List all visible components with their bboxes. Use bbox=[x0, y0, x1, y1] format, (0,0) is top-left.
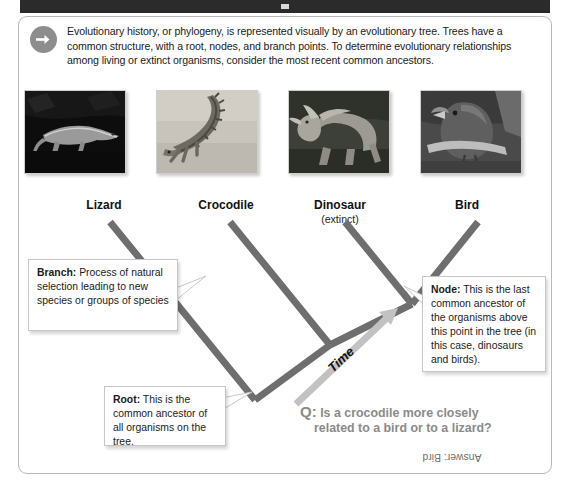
internal-branch-archosaur bbox=[330, 304, 412, 345]
question-line1: Is a crocodile more closely bbox=[320, 406, 478, 420]
branch-crocodile bbox=[230, 222, 330, 345]
review-question: Q: Is a crocodile more closely related t… bbox=[300, 405, 552, 435]
node-callout-term: Node: bbox=[431, 284, 460, 295]
branch-callout-term: Branch: bbox=[37, 267, 76, 278]
node-callout: Node: This is the last common ancestor o… bbox=[422, 276, 546, 372]
internal-branch-reptile bbox=[255, 345, 330, 400]
branch-callout-leader bbox=[176, 276, 206, 300]
branch-callout: Branch: Process of natural selection lea… bbox=[28, 259, 178, 331]
question-marker: Q: bbox=[300, 403, 317, 420]
root-callout-leader bbox=[222, 392, 252, 410]
branch-dinosaur bbox=[345, 222, 412, 304]
root-callout-term: Root: bbox=[113, 394, 140, 405]
node-callout-text: This is the last common ancestor of the … bbox=[431, 284, 536, 365]
question-line2: related to a bird or to a lizard? bbox=[300, 421, 552, 436]
diagram-page: Evolutionary history, or phylogeny, is r… bbox=[0, 0, 570, 490]
root-callout: Root: This is the common ancestor of all… bbox=[104, 386, 226, 446]
question-answer: Answer: Bird bbox=[392, 452, 512, 463]
